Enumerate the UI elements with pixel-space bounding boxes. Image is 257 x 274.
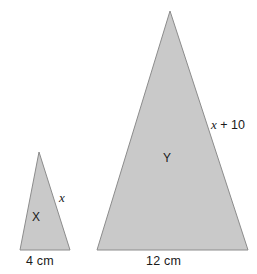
geometry-figure: x X 4 cm x + 10 Y 12 cm [0,0,257,274]
triangle-x-side-label: x [59,191,65,204]
triangle-y-side-remainder: + 10 [217,118,245,132]
triangles-canvas [0,0,257,274]
triangle-x-name-label: X [32,211,40,223]
triangle-x-base-label: 4 cm [26,255,54,268]
triangle-y-name-label: Y [163,152,171,164]
triangle-y-base-label: 12 cm [146,255,181,268]
triangle-y-side-label: x + 10 [211,118,245,132]
